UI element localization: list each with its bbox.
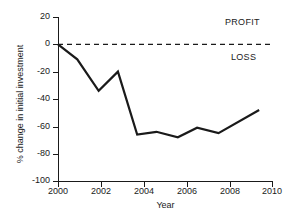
plot-area bbox=[0, 0, 289, 217]
data-series-line bbox=[58, 44, 259, 137]
chart-figure: 20 0 -20 -40 -60 -80 -100 2000 2002 2004… bbox=[0, 0, 289, 217]
